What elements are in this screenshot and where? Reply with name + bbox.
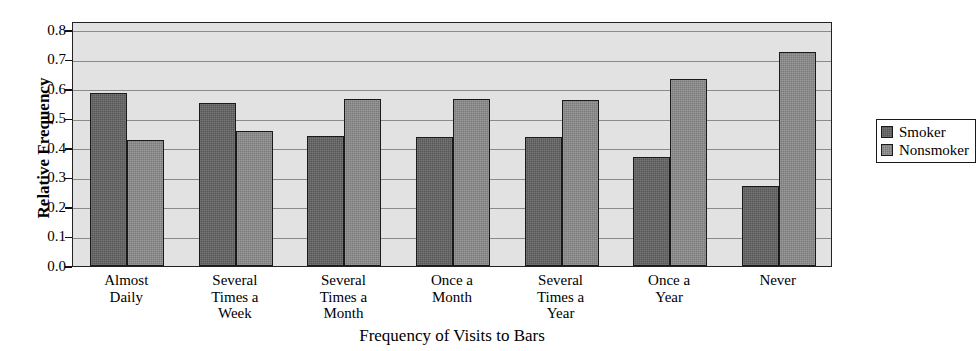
gridline bbox=[73, 90, 831, 91]
y-axis-tick-label: 0.4 bbox=[28, 140, 66, 157]
bar-smoker bbox=[416, 137, 453, 266]
legend-swatch-smoker bbox=[881, 126, 893, 138]
bar-smoker bbox=[199, 103, 236, 266]
gridline bbox=[73, 120, 831, 121]
legend-label-nonsmoker: Nonsmoker bbox=[899, 142, 969, 159]
x-axis-title: Frequency of Visits to Bars bbox=[72, 326, 832, 346]
bar-smoker bbox=[525, 137, 562, 266]
legend-label-smoker: Smoker bbox=[899, 124, 946, 141]
bar-smoker bbox=[90, 93, 127, 266]
bar-nonsmoker bbox=[344, 99, 381, 266]
y-axis-tick-mark bbox=[65, 60, 72, 62]
legend: Smoker Nonsmoker bbox=[876, 119, 976, 163]
y-axis-tick-mark bbox=[65, 178, 72, 180]
gridline bbox=[73, 61, 831, 62]
bar-nonsmoker bbox=[670, 79, 707, 266]
y-axis-tick-mark bbox=[65, 89, 72, 91]
legend-entry-nonsmoker: Nonsmoker bbox=[881, 141, 969, 159]
y-axis-tick-mark bbox=[65, 148, 72, 150]
bar-nonsmoker bbox=[453, 99, 490, 266]
cropped-title-remnant bbox=[0, 0, 972, 4]
bar-smoker bbox=[742, 186, 779, 266]
y-axis-tick-label: 0.2 bbox=[28, 199, 66, 216]
y-axis-tick-mark bbox=[65, 30, 72, 32]
y-axis-tick-mark bbox=[65, 266, 72, 268]
y-axis-tick-label: 0.7 bbox=[28, 51, 66, 68]
plot-area bbox=[72, 22, 832, 267]
y-axis-tick-label: 0.3 bbox=[28, 169, 66, 186]
bar-nonsmoker bbox=[127, 140, 164, 266]
gridline bbox=[73, 31, 831, 32]
y-axis-tick-mark bbox=[65, 207, 72, 209]
y-axis-tick-label: 0.1 bbox=[28, 228, 66, 245]
y-axis-tick-mark bbox=[65, 119, 72, 121]
x-axis-category-label: Never bbox=[711, 272, 844, 289]
y-axis-tick-mark bbox=[65, 237, 72, 239]
bar-smoker bbox=[633, 157, 670, 266]
bar-nonsmoker bbox=[236, 131, 273, 266]
y-axis-tick-label: 0.8 bbox=[28, 22, 66, 39]
legend-swatch-nonsmoker bbox=[881, 144, 893, 156]
y-axis-tick-label: 0.6 bbox=[28, 81, 66, 98]
y-axis-tick-label: 0.5 bbox=[28, 110, 66, 127]
legend-entry-smoker: Smoker bbox=[881, 123, 969, 141]
bar-smoker bbox=[307, 136, 344, 266]
bar-nonsmoker bbox=[779, 52, 816, 266]
bar-nonsmoker bbox=[562, 100, 599, 266]
